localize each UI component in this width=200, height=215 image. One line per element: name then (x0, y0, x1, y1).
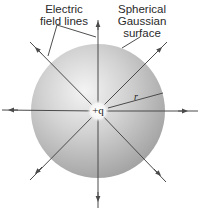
label-gaussian-surface: Spherical Gaussian surface (112, 3, 172, 39)
label-electric-line1: Electric (34, 3, 94, 15)
label-surface-line1: Spherical (112, 3, 172, 15)
label-surface-line2: Gaussian (112, 15, 172, 27)
label-surface-line3: surface (112, 27, 172, 39)
label-electric-line2: field lines (34, 15, 94, 27)
charge-label: +q (87, 104, 109, 116)
label-electric-field-lines: Electric field lines (34, 3, 94, 27)
leader-electric-to-upleft (48, 25, 57, 56)
radius-label: r (134, 91, 138, 102)
